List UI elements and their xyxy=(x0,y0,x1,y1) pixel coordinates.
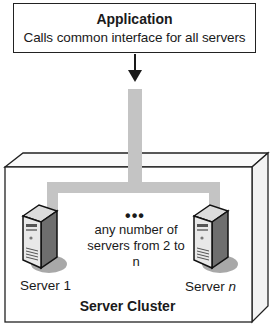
ellipsis-dots: ••• xyxy=(120,212,150,220)
server-count-note: any number of servers from 2 to n xyxy=(82,222,190,270)
server-1-label: Server 1 xyxy=(20,278,71,293)
application-box: Application Calls common interface for a… xyxy=(13,3,256,53)
application-title: Application xyxy=(14,11,255,27)
arrow-down-icon xyxy=(128,70,142,82)
cluster-title: Server Cluster xyxy=(0,298,255,314)
application-subtitle: Calls common interface for all servers xyxy=(14,30,255,45)
server-n-label: Server n xyxy=(185,279,236,294)
connector-pipe-horizontal xyxy=(47,182,220,193)
server-1-icon xyxy=(17,202,67,274)
server-n-label-prefix: Server xyxy=(185,279,229,294)
note-line-2: servers from 2 to n xyxy=(82,238,190,270)
server-n-icon xyxy=(188,202,238,274)
server-n-label-italic: n xyxy=(229,279,237,294)
note-line-1: any number of xyxy=(82,222,190,238)
